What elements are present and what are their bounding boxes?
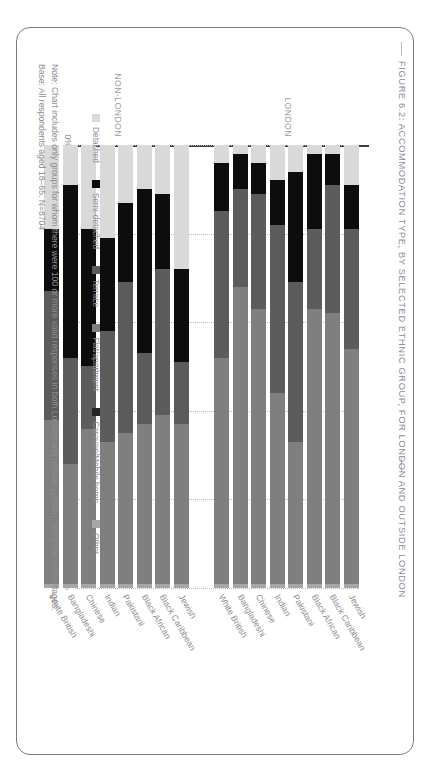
bar-segment-other <box>233 584 248 588</box>
bar-segment-semi-detached <box>137 189 152 353</box>
stacked-bar[interactable] <box>63 145 78 588</box>
bar-segment-detached <box>289 145 304 172</box>
bar-segment-terrace <box>174 362 189 424</box>
stacked-bar[interactable] <box>270 145 285 588</box>
bar-segment-detached <box>215 145 230 163</box>
bar-segment-semi-detached <box>119 203 134 283</box>
stacked-bar[interactable] <box>119 145 134 588</box>
bar-row <box>119 145 134 588</box>
bar-segment-flat-apartment <box>137 424 152 583</box>
legend-swatch-icon <box>92 180 100 188</box>
stacked-bar[interactable] <box>100 145 115 588</box>
legend-label: Caravan/Mobile home <box>91 421 101 503</box>
bar-segment-other <box>119 584 134 588</box>
stacked-bar[interactable] <box>174 145 189 588</box>
bar-segment-detached <box>63 145 78 185</box>
bar-segment-terrace <box>100 331 115 442</box>
stacked-bar[interactable] <box>289 145 304 588</box>
bar-segment-semi-detached <box>174 269 189 362</box>
bar-segment-other <box>100 584 115 588</box>
legend-item[interactable]: Other <box>91 520 101 554</box>
legend-label: Other <box>91 533 101 554</box>
figure-frame: FIGURE 6.2: ACCOMMODATION TYPE, BY SELEC… <box>16 27 414 755</box>
legend-swatch-icon <box>92 266 100 274</box>
bar-segment-terrace <box>156 269 171 415</box>
bar-segment-semi-detached <box>252 163 267 194</box>
bar-segment-flat-apartment <box>63 464 78 584</box>
bar-segment-flat-apartment <box>326 313 341 583</box>
chart-legend: DetachedSemi-detachedTerraceFlat/apartme… <box>91 114 101 554</box>
bar-segment-detached <box>119 145 134 203</box>
bar-segment-flat-apartment <box>174 424 189 583</box>
plot-region: 0%20%40%60%80%100%JewishBlack CaribbeanB… <box>81 145 359 588</box>
axis-tick-label: 0% <box>63 121 73 147</box>
title-rule-left <box>402 42 403 56</box>
bar-row <box>63 145 78 588</box>
note-line-1: Note: Chart includes only groups for who… <box>49 64 62 734</box>
bar-row <box>215 145 230 588</box>
bar-segment-other <box>307 584 322 588</box>
bar-segment-other <box>63 584 78 588</box>
legend-item[interactable]: Flat/apartment <box>91 324 101 391</box>
legend-label: Detached <box>91 127 101 163</box>
bar-segment-other <box>82 584 97 588</box>
group-label-london: LONDON <box>283 37 293 137</box>
bar-segment-other <box>270 584 285 588</box>
bar-segment-flat-apartment <box>215 358 230 584</box>
stacked-bar[interactable] <box>215 145 230 588</box>
bar-segment-terrace <box>344 229 359 349</box>
bar-row <box>233 145 248 588</box>
bar-segment-terrace <box>270 225 285 393</box>
bar-row <box>156 145 171 588</box>
legend-item[interactable]: Caravan/Mobile home <box>91 408 101 503</box>
category-label: Indian <box>103 593 123 618</box>
stacked-bar[interactable] <box>252 145 267 588</box>
stacked-bar[interactable] <box>344 145 359 588</box>
legend-item[interactable]: Detached <box>91 114 101 163</box>
bar-row <box>344 145 359 588</box>
bar-segment-detached <box>252 145 267 163</box>
bar-segment-semi-detached <box>270 180 285 224</box>
bar-segment-flat-apartment <box>344 349 359 584</box>
bar-row <box>174 145 189 588</box>
legend-swatch-icon <box>92 408 100 416</box>
bar-segment-terrace <box>252 194 267 309</box>
bar-segment-flat-apartment <box>233 287 248 584</box>
stacked-bar[interactable] <box>326 145 341 588</box>
bar-segment-flat-apartment <box>156 415 171 583</box>
stacked-bar[interactable] <box>137 145 152 588</box>
bar-segment-other <box>174 584 189 588</box>
bar-segment-semi-detached <box>233 154 248 189</box>
bar-segment-detached <box>100 145 115 238</box>
bar-segment-flat-apartment <box>119 433 134 584</box>
bar-segment-flat-apartment <box>270 393 285 583</box>
page-title: FIGURE 6.2: ACCOMMODATION TYPE, BY SELEC… <box>397 61 407 598</box>
bar-segment-detached <box>307 145 322 154</box>
bar-segment-other <box>156 584 171 588</box>
figure-notes: Note: Chart includes only groups for who… <box>36 64 61 734</box>
bar-segment-other <box>344 584 359 588</box>
bar-segment-detached <box>156 145 171 194</box>
stacked-bar[interactable] <box>233 145 248 588</box>
legend-label: Flat/apartment <box>91 337 101 391</box>
legend-swatch-icon <box>92 114 100 122</box>
legend-item[interactable]: Semi-detached <box>91 180 101 249</box>
bar-segment-detached <box>270 145 285 180</box>
bar-segment-other <box>252 584 267 588</box>
bar-segment-other <box>215 584 230 588</box>
bar-segment-semi-detached <box>63 185 78 358</box>
bar-segment-other <box>289 584 304 588</box>
legend-label: Terrace <box>91 279 101 307</box>
legend-swatch-icon <box>92 520 100 528</box>
bar-segment-semi-detached <box>100 238 115 331</box>
bar-segment-detached <box>174 145 189 269</box>
bar-segment-semi-detached <box>344 185 359 229</box>
bar-segment-other <box>137 584 152 588</box>
bar-segment-terrace <box>119 282 134 433</box>
bar-segment-semi-detached <box>326 154 341 185</box>
bar-segment-semi-detached <box>289 172 304 283</box>
bar-segment-other <box>326 584 341 588</box>
stacked-bar[interactable] <box>307 145 322 588</box>
legend-item[interactable]: Terrace <box>91 266 101 307</box>
stacked-bar[interactable] <box>156 145 171 588</box>
